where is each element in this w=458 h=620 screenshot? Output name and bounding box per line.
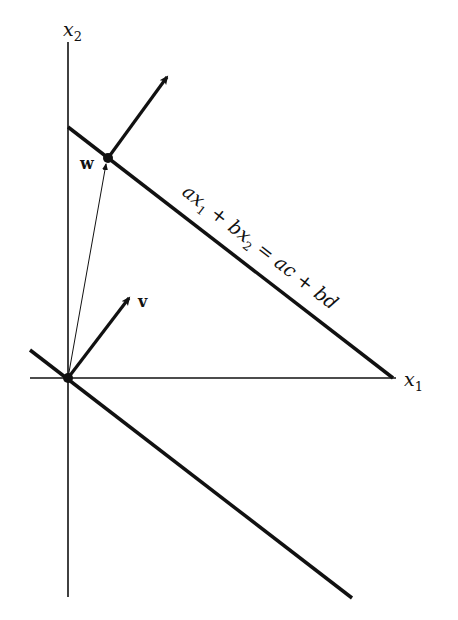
normal-vector-v — [68, 298, 129, 378]
origin-point — [63, 373, 73, 383]
diagram-canvas: x2 x1 w v ax1 + bx2 = ac + bd — [0, 0, 458, 620]
w-label: w — [79, 154, 95, 173]
normal-vector-at-w — [108, 77, 167, 158]
hyperplane-through-w — [68, 127, 393, 378]
v-label: v — [137, 292, 148, 311]
x2-axis-label: x2 — [63, 18, 82, 44]
point-w — [103, 153, 113, 163]
x1-axis-label: x1 — [404, 368, 423, 394]
hyperplane-through-origin — [30, 350, 352, 598]
hyperplane-equation: ax1 + bx2 = ac + bd — [176, 180, 343, 317]
vector-origin-to-w — [68, 164, 106, 378]
